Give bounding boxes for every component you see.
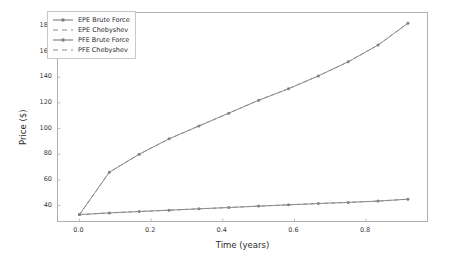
x-tick-label: 0.8 bbox=[350, 226, 380, 234]
legend-item[interactable]: PFE Chebyshev bbox=[52, 45, 130, 55]
legend-item[interactable]: PFE Brute Force bbox=[52, 35, 130, 45]
x-tick-label: 0.4 bbox=[207, 226, 237, 234]
legend-swatch-solid-marker-icon bbox=[52, 35, 74, 45]
y-tick-label: 140 bbox=[26, 72, 52, 80]
y-tick-label: 40 bbox=[26, 201, 52, 209]
legend-box: EPE Brute Force EPE Chebyshev PFE Brute … bbox=[47, 11, 136, 59]
legend-label: PFE Brute Force bbox=[78, 35, 129, 45]
y-tick-label: 80 bbox=[26, 149, 52, 157]
legend-swatch-dashed-icon bbox=[52, 45, 74, 55]
legend-item[interactable]: EPE Brute Force bbox=[52, 15, 130, 25]
legend-label: EPE Chebyshev bbox=[78, 25, 128, 35]
x-axis-label: Time (years) bbox=[57, 240, 428, 250]
data-point-marker bbox=[168, 209, 171, 212]
legend-label: EPE Brute Force bbox=[78, 15, 130, 25]
x-tick-label: 0.6 bbox=[278, 226, 308, 234]
legend-label: PFE Chebyshev bbox=[78, 45, 128, 55]
y-tick-label: 120 bbox=[26, 98, 52, 106]
legend-swatch-solid-marker-icon bbox=[52, 15, 74, 25]
data-point-marker bbox=[197, 124, 200, 127]
x-tick-label: 0.0 bbox=[63, 226, 93, 234]
x-tick-label: 0.2 bbox=[135, 226, 165, 234]
data-point-marker bbox=[406, 198, 409, 201]
legend-item[interactable]: EPE Chebyshev bbox=[52, 25, 130, 35]
y-tick-label: 60 bbox=[26, 175, 52, 183]
y-tick-label: 100 bbox=[26, 124, 52, 132]
legend-swatch-dashed-icon bbox=[52, 25, 74, 35]
figure-canvas: Price ($) 406080100120140160180 0.00.20.… bbox=[0, 0, 450, 261]
